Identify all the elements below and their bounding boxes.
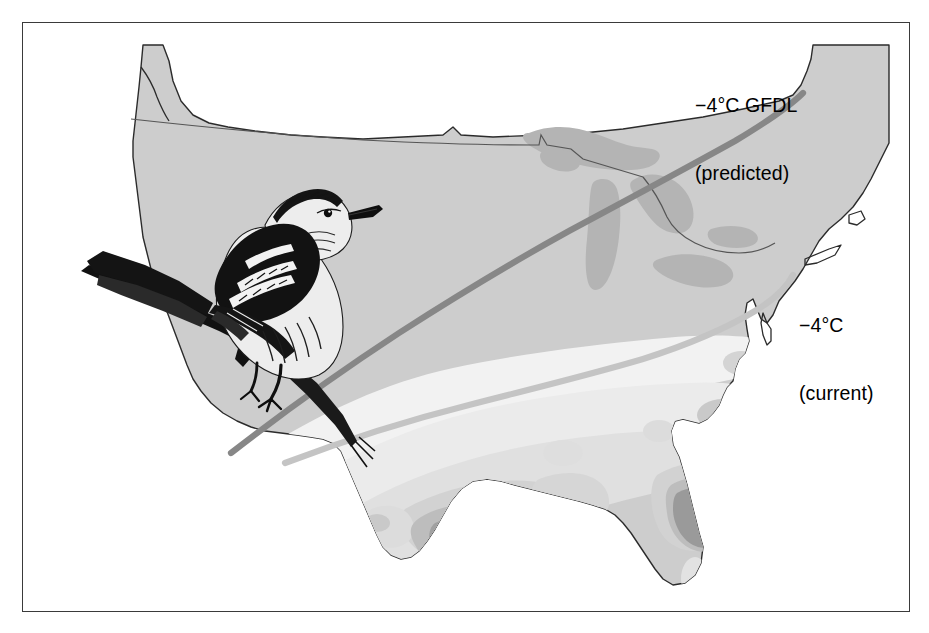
current-label-line-2: (current)	[799, 382, 874, 405]
contour-blob-ozarks	[543, 440, 583, 466]
map-frame: −4°C GFDL (predicted) −4°C (current)	[22, 22, 910, 612]
gfdl-label-line-2: (predicted)	[695, 162, 797, 185]
current-isotherm-label: −4°C (current)	[799, 269, 874, 449]
gfdl-label-line-1: −4°C GFDL	[695, 94, 797, 117]
bird-eye-highlight	[328, 210, 330, 212]
current-label-line-1: −4°C	[799, 314, 874, 337]
range-map-figure: −4°C GFDL (predicted) −4°C (current)	[0, 0, 929, 633]
gfdl-predicted-isotherm-label: −4°C GFDL (predicted)	[695, 49, 797, 229]
contour-blob-appalachia	[643, 420, 675, 442]
